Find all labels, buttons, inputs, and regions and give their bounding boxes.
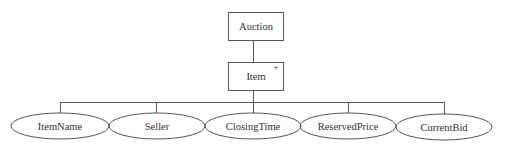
multiplicity-plus-marker: + bbox=[273, 62, 278, 72]
hierarchy-diagram: Auction Item + ItemName Seller ClosingTi… bbox=[0, 0, 512, 152]
attribute-label-reservedprice: ReservedPrice bbox=[318, 121, 379, 132]
item-label: Item bbox=[246, 71, 265, 82]
attribute-label-seller: Seller bbox=[145, 121, 170, 132]
auction-label: Auction bbox=[239, 21, 274, 32]
attribute-label-closingtime: ClosingTime bbox=[226, 121, 281, 132]
attribute-label-currentbid: CurrentBid bbox=[420, 122, 468, 133]
attribute-label-itemname: ItemName bbox=[38, 121, 83, 132]
